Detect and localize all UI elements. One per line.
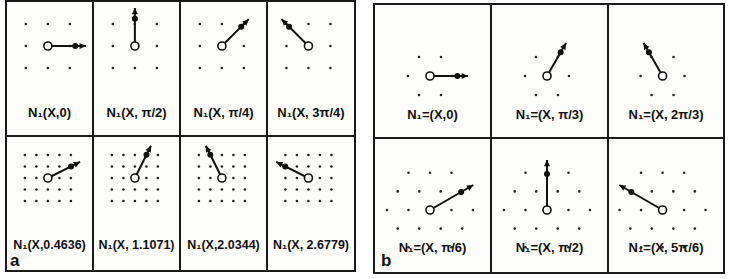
lattice-point [122, 154, 125, 157]
neighbor-site [282, 163, 288, 169]
lattice-point [461, 227, 464, 230]
lattice-point [58, 188, 61, 191]
origin-site [218, 174, 226, 182]
lattice-point [418, 227, 421, 230]
lattice-point [244, 200, 247, 203]
lattice-point [651, 190, 654, 193]
lattice-point [47, 154, 50, 157]
diagram-cell: N₁(X, 1.1071) [94, 137, 181, 270]
lattice-point [284, 188, 287, 191]
lattice-point [319, 165, 322, 168]
cell-label: N₁(X,0.4636) [7, 238, 92, 252]
neighbor-site [286, 24, 292, 30]
lattice-point [70, 177, 73, 180]
lattice-point [567, 209, 570, 212]
lattice-point [157, 200, 160, 203]
lattice-point [198, 177, 201, 180]
lattice-point [578, 190, 581, 193]
lattice-point [35, 188, 38, 191]
lattice-point [524, 209, 527, 212]
lattice-point [672, 227, 675, 230]
diagram-cell: N₁(X, π/4) [181, 2, 268, 137]
diagram-cell: N₁=(X, 5π/6) [609, 139, 723, 272]
lattice-point [232, 188, 235, 191]
diagram-cell: N₁(X, π/2) [94, 2, 181, 137]
lattice-point [156, 67, 159, 70]
lattice-point [156, 45, 159, 48]
lattice-point [296, 165, 299, 168]
lattice-point [307, 188, 310, 191]
lattice-point [25, 45, 28, 48]
lattice-point [221, 200, 224, 203]
lattice-point [122, 188, 125, 191]
lattice-point [513, 227, 516, 230]
lattice-point [24, 188, 27, 191]
lattice-point [672, 94, 675, 97]
lattice-point [524, 75, 527, 78]
diagram-cell: N₁=(X, π/2) [492, 139, 609, 272]
lattice-point [198, 165, 201, 168]
lattice-point [296, 154, 299, 157]
cell-label: N₁=(X,0) [375, 107, 490, 122]
lattice-point [330, 165, 333, 168]
lattice-point [244, 188, 247, 191]
lattice-point [25, 23, 28, 26]
neighbor-site [68, 163, 74, 169]
lattice-point [145, 177, 148, 180]
lattice-point [24, 200, 27, 203]
cell-label: N₁(X, 3π/4) [268, 105, 354, 120]
lattice-point [232, 165, 235, 168]
lattice-point [407, 209, 410, 212]
lattice-point [70, 200, 73, 203]
lattice-point [134, 154, 137, 157]
origin-site [218, 42, 226, 50]
origin-site [426, 72, 434, 80]
lattice-point [157, 188, 160, 191]
cell-label: N₁=(X, 5π/6) [609, 240, 723, 255]
lattice-point [407, 75, 410, 78]
origin-site [304, 42, 312, 50]
lattice-point [35, 165, 38, 168]
panel-a-square-lattice: N₁(X,0)N₁(X, π/2)N₁(X, π/4)N₁(X, 3π/4)N₁… [5, 0, 356, 272]
lattice-point [330, 200, 333, 203]
lattice-point [221, 23, 224, 26]
lattice-point [704, 209, 707, 212]
lattice-point [296, 200, 299, 203]
lattice-point [232, 154, 235, 157]
lattice-point [567, 171, 570, 174]
origin-site [44, 42, 52, 50]
lattice-point [284, 200, 287, 203]
lattice-point [440, 56, 443, 59]
lattice-point [198, 154, 201, 157]
lattice-point [134, 67, 137, 70]
diagram-cell: N₁(X, 2.6779) [268, 137, 354, 270]
diagram-cell: N₁=(X, 2π/3) [609, 5, 723, 139]
lattice-point [47, 165, 50, 168]
lattice-point [418, 56, 421, 59]
lattice-point [232, 177, 235, 180]
vector-line [430, 185, 473, 210]
cell-label: N₁(X, π/4) [181, 105, 266, 120]
lattice-point [58, 177, 61, 180]
lattice-point [25, 67, 28, 70]
arrowhead-icon [80, 43, 86, 49]
lattice-point [35, 200, 38, 203]
lattice-point [47, 200, 50, 203]
lattice-point [651, 227, 654, 230]
lattice-point [157, 154, 160, 157]
lattice-point [199, 67, 202, 70]
diagram-cell: N₁=(X, π/3) [492, 5, 609, 139]
lattice-point [578, 227, 581, 230]
lattice-point [243, 67, 246, 70]
lattice-point [209, 188, 212, 191]
lattice-point [112, 67, 115, 70]
lattice-point [284, 177, 287, 180]
lattice-point [556, 227, 559, 230]
lattice-point [694, 227, 697, 230]
neighbor-site [558, 49, 564, 55]
lattice-point [661, 171, 664, 174]
lattice-point [640, 209, 643, 212]
lattice-point [122, 177, 125, 180]
lattice-point [396, 190, 399, 193]
lattice-point [122, 200, 125, 203]
